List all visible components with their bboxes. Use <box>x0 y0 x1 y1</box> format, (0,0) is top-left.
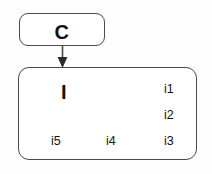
instance-node[interactable]: I i1 i2 i3 i4 i5 <box>18 67 197 160</box>
component-node[interactable]: C <box>19 13 105 46</box>
instance-node-label: I <box>61 82 67 102</box>
port-label-i1[interactable]: i1 <box>164 83 174 96</box>
component-node-label: C <box>20 22 104 42</box>
port-label-i3[interactable]: i3 <box>164 135 174 148</box>
port-label-i5[interactable]: i5 <box>51 135 61 148</box>
port-label-i4[interactable]: i4 <box>106 135 116 148</box>
diagram-canvas: C I i1 i2 i3 i4 i5 <box>0 0 212 174</box>
port-label-i2[interactable]: i2 <box>164 109 174 122</box>
